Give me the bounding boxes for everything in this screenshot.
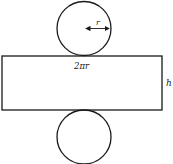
radius-label: r (96, 18, 101, 27)
cylinder-net-diagram: r 2πr h (0, 0, 173, 164)
bottom-circle (57, 110, 111, 164)
circumference-label: 2πr (73, 61, 90, 71)
height-label: h (166, 78, 172, 88)
